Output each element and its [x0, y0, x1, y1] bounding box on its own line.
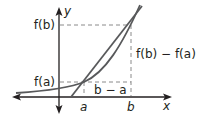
- fa-label: f(a): [34, 75, 55, 89]
- b-label: b: [127, 100, 135, 114]
- secant-diagram: y x a b f(b) f(a) b − a f(b) − f(a): [0, 0, 199, 120]
- x-axis-label: x: [162, 99, 171, 113]
- fb-label: f(b): [34, 18, 55, 32]
- a-label: a: [80, 100, 87, 114]
- rise-label: f(b) − f(a): [136, 47, 196, 61]
- diagram-canvas: y x a b f(b) f(a) b − a f(b) − f(a): [0, 0, 199, 120]
- run-label: b − a: [94, 83, 127, 97]
- y-axis-label: y: [63, 4, 72, 18]
